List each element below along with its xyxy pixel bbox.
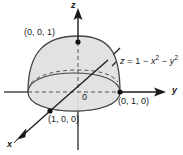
- origin-label: 0: [82, 93, 87, 102]
- point-marker-0-1-0: [117, 89, 122, 94]
- x-axis-label: x: [7, 140, 12, 149]
- surface-equation-label: z = 1 − x2 − y2: [120, 57, 178, 66]
- z-axis-label: z: [71, 1, 76, 10]
- point-label-x: (1, 0, 0): [48, 115, 79, 124]
- point-label-y: (0, 1, 0): [118, 97, 149, 106]
- paraboloid-diagram: z y x (0, 0, 1) (0, 1, 0) (1, 0, 0) 0 z …: [0, 0, 183, 155]
- point-marker-0-0-1: [75, 39, 80, 44]
- x-axis-arrowhead: [14, 129, 26, 143]
- point-marker-1-0-0: [47, 108, 52, 113]
- equation-equals: =: [127, 56, 132, 66]
- point-label-top: (0, 0, 1): [24, 28, 55, 37]
- y-axis-label: y: [172, 86, 177, 95]
- x-axis-lower-segment: [22, 111, 50, 136]
- base-ellipse-front-fill: [28, 92, 120, 111]
- equation-y-exponent: 2: [174, 54, 178, 61]
- equation-z: z: [120, 56, 125, 66]
- diagram-canvas: [0, 0, 183, 155]
